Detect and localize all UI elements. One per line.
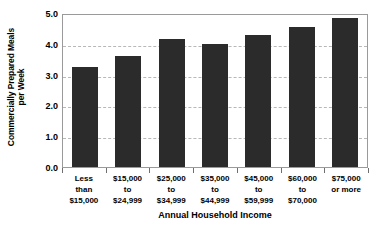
bar — [202, 44, 228, 167]
x-axis-tick-label-line: $44,999 — [193, 196, 237, 207]
x-axis-tick-label-line: to — [237, 185, 281, 196]
x-axis-tick-label-line: $75,000 — [324, 174, 368, 185]
x-axis-tick-mark — [324, 168, 325, 173]
x-axis-tick-label: $75,000or more — [324, 174, 368, 208]
bar — [332, 18, 358, 167]
x-axis-tick-label: $15,000to$24,999 — [106, 174, 150, 208]
x-axis-tick-label: $60,000to$70,000 — [281, 174, 325, 208]
plot-area — [62, 14, 368, 168]
x-axis-tick-label-line: $45,000 — [237, 174, 281, 185]
x-axis-tick-mark — [193, 168, 194, 173]
x-axis-tick-mark — [281, 168, 282, 173]
y-axis-tick-label: 5.0 — [32, 9, 58, 19]
x-axis-tick-label-line: to — [281, 185, 325, 196]
x-axis-tick-label-line: Less — [62, 174, 106, 185]
x-axis-tick-mark — [149, 168, 150, 173]
y-axis-title: Commercially Prepared Meals per Week — [0, 2, 34, 172]
y-axis-tick-label: 0.0 — [32, 163, 58, 173]
y-axis-title-line-2: per Week — [17, 69, 27, 106]
x-axis-tick-label-line: $15,000 — [106, 174, 150, 185]
x-axis-tick-mark — [368, 168, 369, 173]
x-axis-tick-label: $35,000to$44,999 — [193, 174, 237, 208]
x-axis-tick-label-line: $35,000 — [193, 174, 237, 185]
x-axis-tick-mark — [62, 168, 63, 173]
x-axis-tick-label: $45,000to$59,999 — [237, 174, 281, 208]
bar — [72, 67, 98, 167]
x-axis-tick-label-line: to — [149, 185, 193, 196]
bar — [115, 56, 141, 167]
bar — [289, 27, 315, 167]
x-axis-tick-label: $25,000to$34,999 — [149, 174, 193, 208]
y-axis-tick-labels: 0.01.02.03.04.05.0 — [32, 0, 58, 228]
x-axis-tick-label-line: to — [193, 185, 237, 196]
bar-chart-figure: Commercially Prepared Meals per Week 0.0… — [0, 0, 376, 228]
x-axis-tick-label-line: $34,999 — [149, 196, 193, 207]
y-axis-tick-label: 4.0 — [32, 40, 58, 50]
x-axis-tick-mark — [237, 168, 238, 173]
x-axis-tick-label-line: $15,000 — [62, 196, 106, 207]
x-axis-tick-label-line: or more — [324, 185, 368, 196]
x-axis-tick-label-line: $24,999 — [106, 196, 150, 207]
bar — [245, 35, 271, 167]
y-axis-tick-label: 2.0 — [32, 101, 58, 111]
x-axis-tick-label-line: $59,999 — [237, 196, 281, 207]
x-axis-tick-label-line: $60,000 — [281, 174, 325, 185]
x-axis-tick-label-line: $70,000 — [281, 196, 325, 207]
x-axis-title: Annual Household Income — [62, 210, 368, 220]
bar — [159, 39, 185, 167]
y-axis-tick-label: 1.0 — [32, 132, 58, 142]
y-axis-tick-label: 3.0 — [32, 71, 58, 81]
x-axis-tick-mark — [106, 168, 107, 173]
x-axis-tick-labels: Lessthan$15,000$15,000to$24,999$25,000to… — [62, 174, 368, 208]
x-axis-tick-label-line: than — [62, 185, 106, 196]
x-axis-tick-label: Lessthan$15,000 — [62, 174, 106, 208]
x-axis-tick-label-line: to — [106, 185, 150, 196]
x-axis-tick-label-line: $25,000 — [149, 174, 193, 185]
bar-series — [63, 15, 367, 167]
